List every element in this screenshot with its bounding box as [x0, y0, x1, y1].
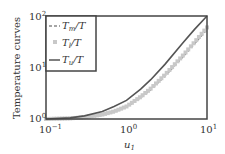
y-axis-label: Temperature curves [11, 17, 22, 119]
legend-marker-swatch [53, 40, 57, 44]
ytick-1: 100 [29, 112, 46, 124]
x-axis-label: u1 [124, 139, 135, 152]
ytick-100: 102 [29, 10, 46, 22]
xtick-1: 100 [120, 123, 137, 135]
xtick-10: 101 [200, 123, 217, 135]
legend: Tm/T Tl/T Tu/T [46, 16, 96, 71]
temperature-chart: Tm/T Tl/T Tu/T 100 101 102 10−1 100 101 … [0, 0, 225, 154]
ytick-10: 101 [29, 61, 46, 73]
xtick-0.1: 10−1 [39, 123, 62, 135]
